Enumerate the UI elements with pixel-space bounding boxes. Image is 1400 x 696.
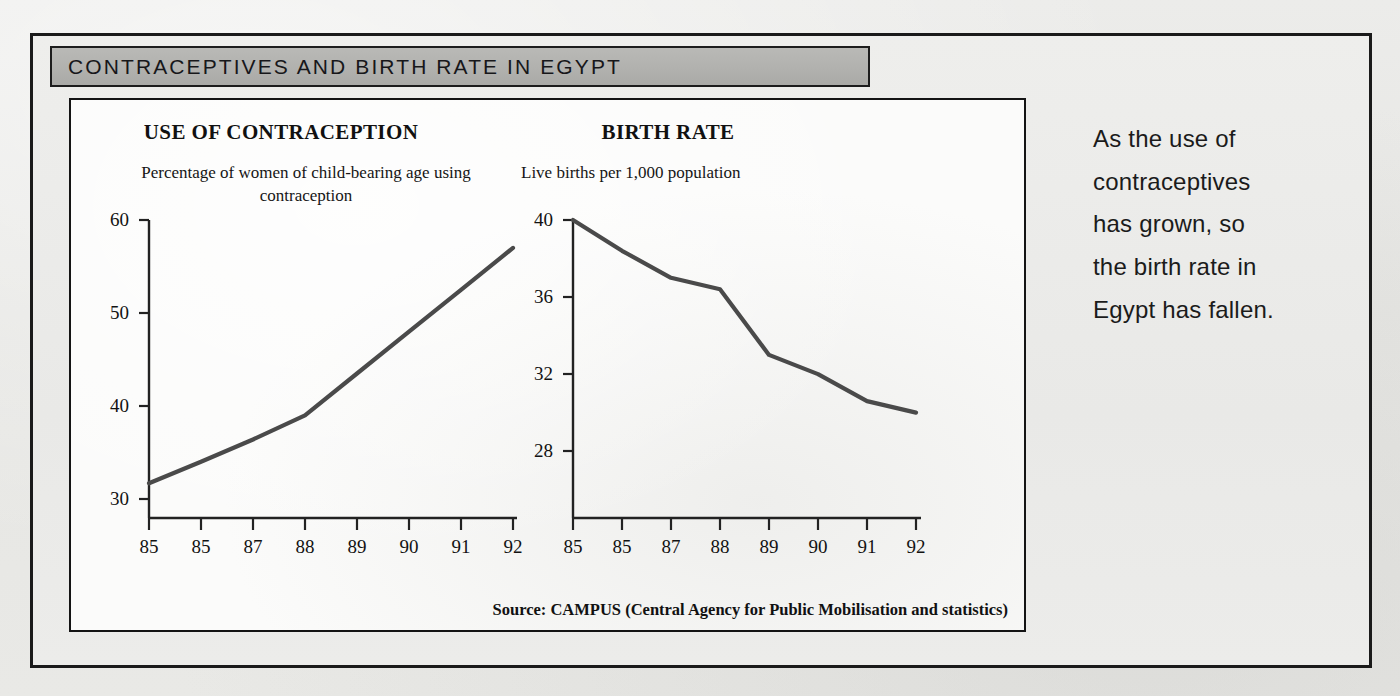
side-caption-line: contraceptives <box>1093 161 1383 204</box>
charts-panel: USE OF CONTRACEPTION Percentage of women… <box>69 98 1026 632</box>
y-tick-label: 32 <box>501 363 553 385</box>
x-tick-label: 85 <box>140 536 159 558</box>
chart-title-use-of-contraception: USE OF CONTRACEPTION <box>71 120 491 145</box>
side-caption-line: Egypt has fallen. <box>1093 289 1383 332</box>
y-tick-marks <box>563 220 573 451</box>
data-series-birth-rate <box>573 220 916 413</box>
y-tick-label: 40 <box>77 395 129 417</box>
side-caption-line: As the use of <box>1093 118 1383 161</box>
x-tick-label: 92 <box>907 536 926 558</box>
data-series-contraception-use <box>149 248 513 483</box>
x-tick-label: 89 <box>760 536 779 558</box>
x-tick-label: 87 <box>662 536 681 558</box>
x-tick-label: 85 <box>613 536 632 558</box>
y-tick-label: 30 <box>77 488 129 510</box>
x-tick-label: 90 <box>809 536 828 558</box>
side-caption-line: the birth rate in <box>1093 246 1383 289</box>
x-tick-label: 85 <box>564 536 583 558</box>
side-caption: As the use of contraceptives has grown, … <box>1093 118 1383 332</box>
x-tick-label: 85 <box>192 536 211 558</box>
plot-area-birth-rate: 40 36 32 28 85 85 87 88 89 90 91 92 <box>531 210 951 580</box>
line-plot-use-of-contraception <box>107 210 527 580</box>
line-plot-birth-rate <box>531 210 951 580</box>
y-tick-label: 40 <box>501 209 553 231</box>
x-tick-label: 87 <box>244 536 263 558</box>
x-tick-label: 89 <box>348 536 367 558</box>
y-tick-label: 60 <box>77 209 129 231</box>
side-caption-line: has grown, so <box>1093 203 1383 246</box>
x-tick-label: 88 <box>296 536 315 558</box>
y-axis-caption-use-of-contraception: Percentage of women of child-bearing age… <box>131 162 481 208</box>
x-tick-label: 91 <box>452 536 471 558</box>
figure-title: CONTRACEPTIVES AND BIRTH RATE IN EGYPT <box>52 55 622 79</box>
y-tick-marks <box>139 220 149 499</box>
figure-title-bar: CONTRACEPTIVES AND BIRTH RATE IN EGYPT <box>50 46 870 87</box>
y-axis-caption-birth-rate: Live births per 1,000 population <box>521 162 851 185</box>
x-tick-label: 90 <box>400 536 419 558</box>
figure-frame: CONTRACEPTIVES AND BIRTH RATE IN EGYPT U… <box>30 33 1372 668</box>
x-tick-label: 92 <box>504 536 523 558</box>
y-tick-label: 28 <box>501 440 553 462</box>
x-tick-marks <box>149 518 513 530</box>
plot-area-use-of-contraception: 60 50 40 30 85 85 87 88 89 90 91 92 <box>107 210 527 580</box>
y-tick-label: 50 <box>77 302 129 324</box>
source-note: Source: CAMPUS (Central Agency for Publi… <box>493 600 1008 620</box>
x-tick-label: 91 <box>858 536 877 558</box>
x-tick-label: 88 <box>711 536 730 558</box>
chart-title-birth-rate: BIRTH RATE <box>503 120 833 145</box>
x-tick-marks <box>573 518 916 530</box>
y-tick-label: 36 <box>501 286 553 308</box>
